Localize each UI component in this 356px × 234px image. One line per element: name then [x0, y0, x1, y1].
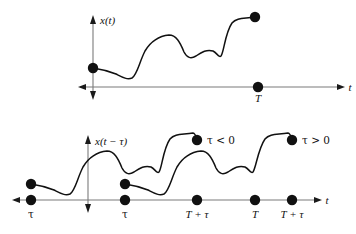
bottom-y-axis-label: x(t − τ): [94, 135, 127, 148]
top-start-point-dot: [88, 63, 98, 73]
top-y-axis-label: x(t): [99, 14, 116, 27]
bottom-tau-left-label: τ: [28, 208, 34, 220]
bottom-curve-b-end-dot: [287, 135, 297, 145]
bottom-y-axis-up-arrow: [85, 135, 91, 144]
bottom-y-axis-down-arrow: [85, 204, 91, 213]
top-y-axis-down-arrow: [90, 91, 96, 100]
top-y-axis-up-arrow: [90, 15, 96, 24]
top-x-axis-left-arrow: [78, 84, 86, 90]
top-t-marker-label: T: [255, 92, 262, 104]
bottom-tau-right-dot: [120, 195, 130, 205]
bottom-x-axis-left-arrow: [12, 197, 20, 203]
bottom-panel: x(t − τ) t τ τ T + τ T T + τ τ < 0 τ > 0: [12, 133, 330, 220]
top-panel: x(t) t T: [78, 12, 352, 104]
bottom-t-plus-tau-right-dot: [287, 195, 297, 205]
figure-canvas: x(t) t T: [0, 0, 356, 234]
tau-positive-label: τ > 0: [302, 134, 330, 146]
bottom-x-axis-label: t: [325, 194, 329, 206]
bottom-t-marker-dot: [250, 195, 260, 205]
bottom-t-marker-label: T: [252, 208, 259, 220]
top-t-marker-dot: [253, 82, 263, 92]
bottom-tau-left-dot: [26, 195, 36, 205]
bottom-x-axis-right-arrow: [314, 197, 322, 203]
bottom-t-plus-tau-left-dot: [192, 195, 202, 205]
bottom-tau-right-label: τ: [122, 208, 128, 220]
bottom-t-plus-tau-right-label: T + τ: [281, 208, 305, 220]
bottom-t-plus-tau-left-label: T + τ: [186, 208, 210, 220]
signal-shift-figure: x(t) t T: [0, 0, 356, 234]
bottom-curve-a-start-dot: [26, 179, 36, 189]
top-x-axis-label: t: [348, 81, 352, 93]
top-signal-curve: [93, 17, 255, 79]
bottom-curve-b-start-dot: [120, 179, 130, 189]
bottom-curve-a-end-dot: [192, 135, 202, 145]
top-x-axis-right-arrow: [337, 84, 345, 90]
tau-negative-label: τ < 0: [207, 134, 235, 146]
top-end-point-dot: [250, 12, 260, 22]
